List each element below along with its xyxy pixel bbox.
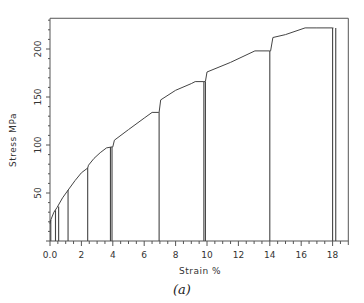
x-tick-label: 14 [264,250,276,260]
x-tick-label: 8 [173,250,179,260]
x-tick-label: 2 [79,250,85,260]
x-tick-label: 18 [327,250,339,260]
stress-strain-chart: 0.024681012141618 50100150200 Stress MPa… [0,0,364,303]
x-axis-title: Strain % [179,266,221,276]
y-axis-title: Stress MPa [8,113,18,167]
x-tick-label: 12 [233,250,244,260]
stress-strain-curve [50,28,333,224]
x-axis-ticks: 0.024681012141618 [43,241,341,260]
x-tick-label: 0.0 [43,250,58,260]
y-axis-ticks: 50100150200 [33,20,50,241]
x-tick-label: 10 [201,250,213,260]
y-tick-label: 200 [33,40,43,57]
y-tick-label: 100 [33,136,43,153]
y-tick-label: 50 [33,187,43,199]
x-tick-label: 16 [295,250,307,260]
figure-caption: (a) [173,282,191,297]
x-tick-label: 4 [110,250,116,260]
unloading-lines [51,28,336,241]
x-tick-label: 6 [141,250,147,260]
y-tick-label: 150 [33,88,43,105]
plot-frame [50,18,348,245]
